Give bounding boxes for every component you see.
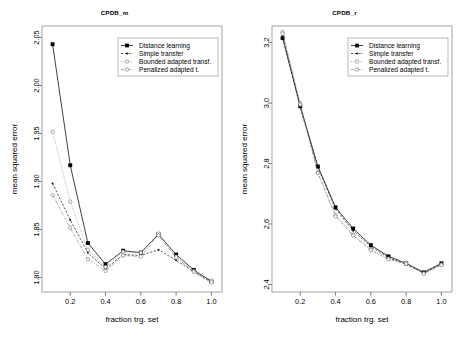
svg-text:2.05: 2.05: [32, 30, 41, 44]
svg-text:0.6: 0.6: [366, 297, 376, 306]
svg-text:fraction trg. set: fraction trg. set: [336, 315, 390, 324]
svg-text:2.8: 2.8: [262, 158, 271, 168]
panel-cpdb-r: CPDB_r 0.20.40.60.81.02.42.62.83.03.2fra…: [230, 0, 459, 353]
svg-text:0.2: 0.2: [65, 297, 75, 306]
svg-text:2.00: 2.00: [32, 78, 41, 92]
svg-text:Penalized adapted t.: Penalized adapted t.: [139, 66, 199, 74]
svg-text:0.8: 0.8: [171, 297, 181, 306]
figure-container: CPDB_m 0.20.40.60.81.01.801.851.901.952.…: [0, 0, 459, 353]
plot-area-right: 0.20.40.60.81.02.42.62.83.03.2fraction t…: [230, 0, 459, 353]
svg-text:Simple transfer: Simple transfer: [139, 50, 184, 58]
svg-text:Bounded adapted transf.: Bounded adapted transf.: [369, 58, 441, 66]
svg-text:0.4: 0.4: [330, 297, 340, 306]
svg-text:2.4: 2.4: [262, 279, 271, 289]
svg-text:3.0: 3.0: [262, 98, 271, 108]
svg-text:1.0: 1.0: [206, 297, 216, 306]
svg-text:2.6: 2.6: [262, 219, 271, 229]
panel-cpdb-m: CPDB_m 0.20.40.60.81.01.801.851.901.952.…: [0, 0, 229, 353]
svg-text:0.6: 0.6: [136, 297, 146, 306]
svg-text:1.0: 1.0: [436, 297, 446, 306]
svg-text:Penalized adapted t.: Penalized adapted t.: [369, 66, 429, 74]
svg-text:1.95: 1.95: [32, 126, 41, 140]
svg-text:Bounded adapted transf.: Bounded adapted transf.: [139, 58, 211, 66]
svg-text:Distance learning: Distance learning: [369, 42, 420, 50]
svg-text:mean squared error: mean squared error: [240, 124, 249, 195]
svg-text:3.2: 3.2: [262, 37, 271, 47]
svg-text:0.2: 0.2: [295, 297, 305, 306]
svg-text:1.90: 1.90: [32, 174, 41, 188]
svg-text:0.8: 0.8: [401, 297, 411, 306]
svg-text:fraction trg. set: fraction trg. set: [106, 315, 160, 324]
plot-area-left: 0.20.40.60.81.01.801.851.901.952.002.05f…: [0, 0, 229, 353]
svg-text:1.80: 1.80: [32, 270, 41, 284]
svg-text:0.4: 0.4: [100, 297, 110, 306]
svg-text:Simple transfer: Simple transfer: [369, 50, 414, 58]
svg-text:Distance learning: Distance learning: [139, 42, 190, 50]
svg-text:1.85: 1.85: [32, 222, 41, 236]
svg-text:mean squared error: mean squared error: [10, 124, 19, 195]
